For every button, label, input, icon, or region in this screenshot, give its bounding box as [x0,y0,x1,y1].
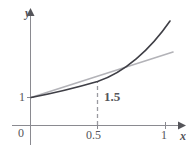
x-tick-label-one: 1 [161,129,167,141]
tangent-line [31,52,173,98]
x-axis-label: x [180,130,186,142]
origin-label: 0 [18,127,24,139]
graph-figure: y x 1 0 0.5 1 1.5 [0,0,196,151]
y-axis-label: y [25,7,30,19]
slope-value-label: 1.5 [104,90,120,103]
y-tick-label-1: 1 [19,91,25,103]
x-tick-label-half: 0.5 [86,129,101,141]
